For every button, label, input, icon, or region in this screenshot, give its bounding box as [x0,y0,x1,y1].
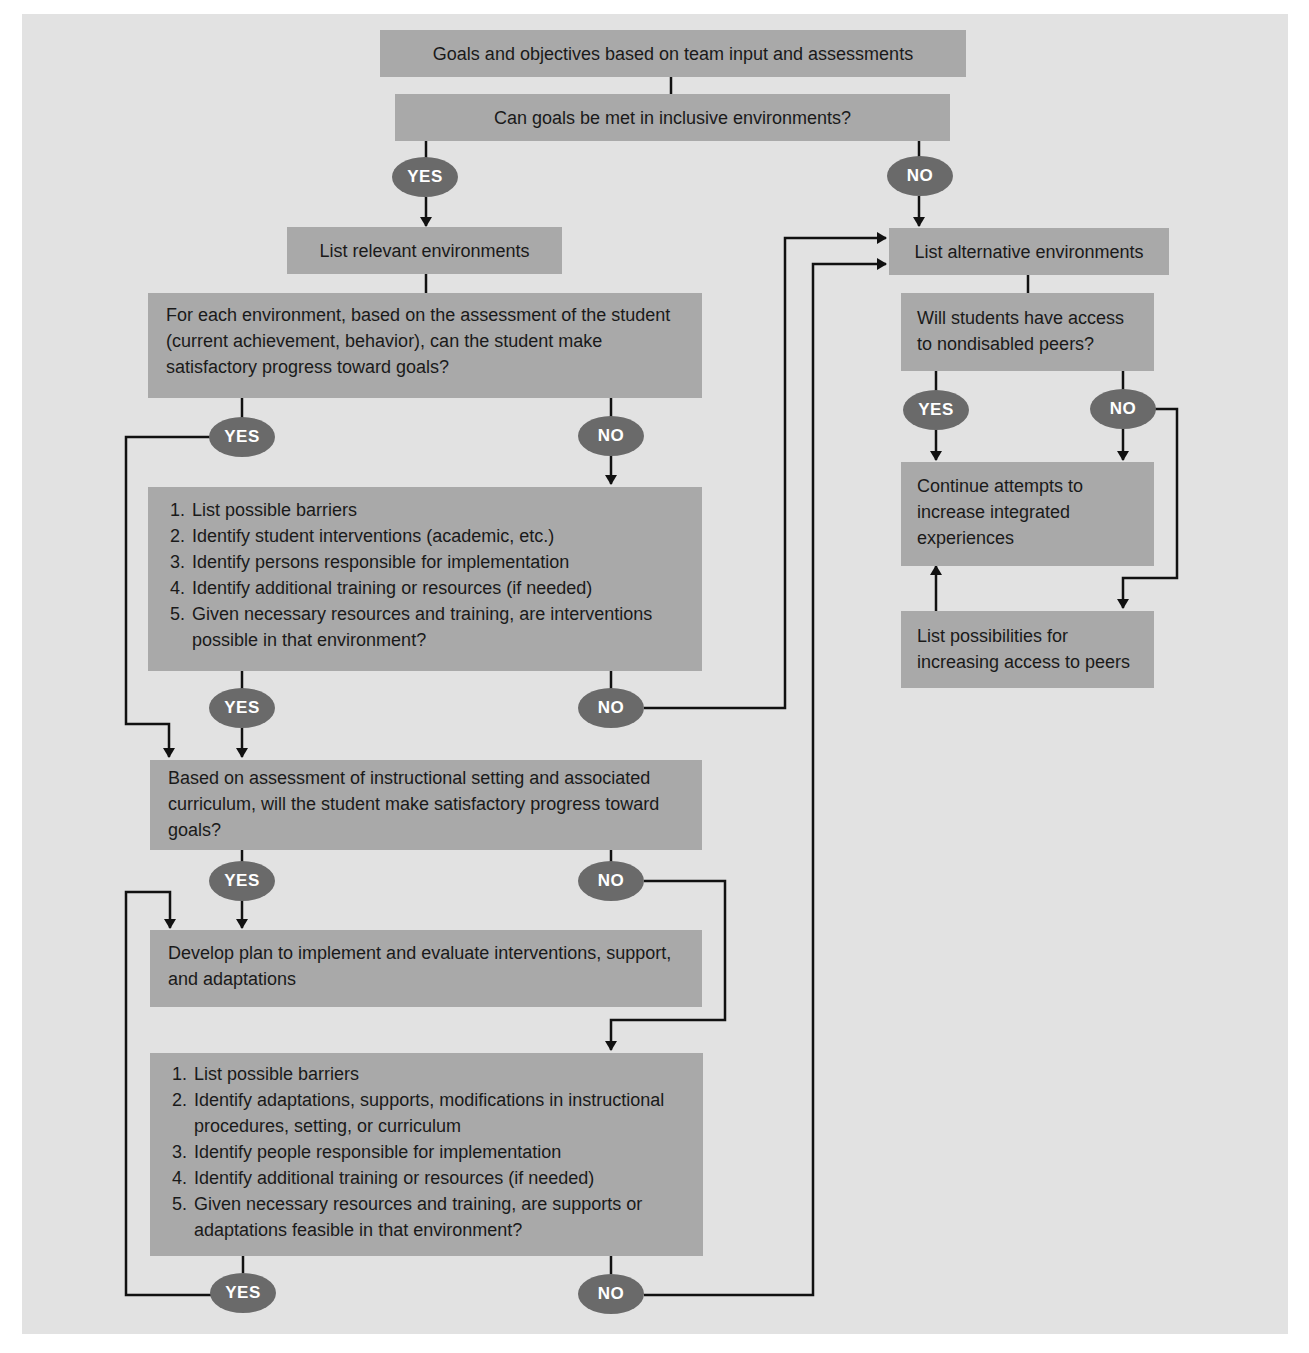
decision-no-each-env: NO [578,416,644,456]
decision-yes-peers: YES [903,390,969,430]
list-item: Given necessary resources and training, … [192,1191,685,1243]
alternative-environments-box: List alternative environments [889,228,1169,275]
decision-no-adaptations: NO [578,1274,644,1314]
decision-no-inclusive: NO [887,156,953,196]
list-item: List possible barriers [192,1061,685,1087]
list-item: Identify student interventions (academic… [190,523,684,549]
decision-no-instructional: NO [578,861,644,901]
decision-no-interventions: NO [578,688,644,728]
decision-yes-each-env: YES [209,417,275,457]
instructional-question-box: Based on assessment of instructional set… [150,760,702,850]
relevant-environments-box: List relevant environments [287,227,562,274]
continue-attempts-box: Continue attempts to increase integrated… [901,462,1154,566]
decision-yes-interventions: YES [209,688,275,728]
adaptations-list-box: List possible barriers Identify adaptati… [150,1053,703,1256]
decision-no-peers: NO [1090,389,1156,429]
inclusive-question-box: Can goals be met in inclusive environmen… [395,94,950,141]
list-item: Identify people responsible for implemen… [192,1139,685,1165]
list-item: List possible barriers [190,497,684,523]
decision-yes-instructional: YES [209,861,275,901]
each-environment-question-box: For each environment, based on the asses… [148,293,702,398]
list-item: Identify adaptations, supports, modifica… [192,1087,685,1139]
goals-box: Goals and objectives based on team input… [380,30,966,77]
increase-access-box: List possibilities for increasing access… [901,611,1154,688]
develop-plan-box: Develop plan to implement and evaluate i… [150,930,702,1007]
interventions-list-box: List possible barriers Identify student … [148,487,702,671]
decision-yes-adaptations: YES [210,1273,276,1313]
list-item: Identify persons responsible for impleme… [190,549,684,575]
list-item: Given necessary resources and training, … [190,601,684,653]
list-item: Identify additional training or resource… [192,1165,685,1191]
peers-question-box: Will students have access to nondisabled… [901,293,1154,371]
decision-yes-inclusive: YES [392,157,458,197]
list-item: Identify additional training or resource… [190,575,684,601]
